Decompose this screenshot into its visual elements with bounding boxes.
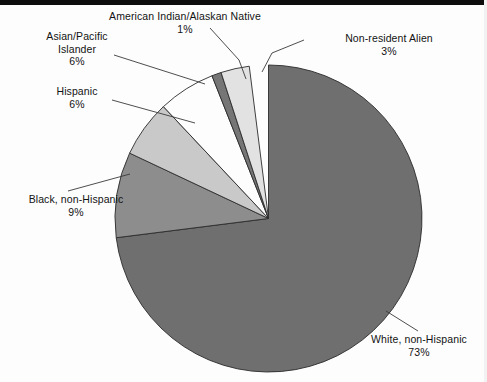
pie-label-white-non-hispanic: White, non-Hispanic 73%	[355, 333, 483, 358]
pie-label-asian-pacific-percent: 6%	[22, 55, 132, 68]
pie-label-asian-pacific-text-line2: Islander	[22, 43, 132, 56]
pie-label-asian-pacific-islander: Asian/Pacific Islander 6%	[22, 30, 132, 68]
pie-chart-figure: American Indian/Alaskan Native 1% Asian/…	[0, 0, 487, 382]
leader-line-white	[386, 311, 418, 331]
pie-label-white-percent: 73%	[355, 346, 483, 359]
pie-label-black-text: Black, non-Hispanic	[6, 193, 146, 206]
pie-label-non-resident-text: Non-resident Alien	[309, 32, 469, 45]
pie-label-hispanic: Hispanic 6%	[22, 85, 132, 110]
pie-label-black-non-hispanic: Black, non-Hispanic 9%	[6, 193, 146, 218]
pie-label-asian-pacific-text-line1: Asian/Pacific	[22, 30, 132, 43]
pie-label-white-text: White, non-Hispanic	[355, 333, 483, 346]
pie-label-black-percent: 9%	[6, 206, 146, 219]
pie-label-american-indian-text: American Indian/Alaskan Native	[95, 10, 275, 23]
pie-label-non-resident-alien: Non-resident Alien 3%	[309, 32, 469, 57]
pie-slices-group	[115, 65, 422, 372]
pie-label-hispanic-text: Hispanic	[22, 85, 132, 98]
pie-label-non-resident-percent: 3%	[309, 45, 469, 58]
pie-label-hispanic-percent: 6%	[22, 98, 132, 111]
